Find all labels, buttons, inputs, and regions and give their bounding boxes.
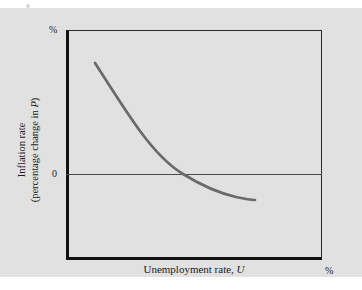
y-axis-title-line-1: Inflation rate (15, 50, 28, 250)
y-axis-title-line-2-prefix: (percentage change in (29, 108, 40, 203)
x-axis-title-unemployment-symbol: U (237, 263, 245, 275)
y-axis-title-price-symbol: P (29, 101, 40, 107)
y-axis-title-line-2: (percentage change in P) (28, 50, 41, 250)
phillips-curve-path (95, 63, 255, 200)
y-axis-unit-label: % (49, 25, 57, 35)
y-axis-zero-label: 0 (52, 169, 57, 179)
x-axis-title-text: Unemployment rate, (143, 263, 236, 275)
figure-plate: % 0 % Inflation rate (percentage change … (0, 8, 362, 277)
phillips-curve-layer (0, 8, 362, 277)
x-axis-unit-label: % (325, 266, 333, 276)
x-axis-title: Unemployment rate, U (66, 263, 322, 275)
y-axis-title: Inflation rate (percentage change in P) (15, 50, 41, 250)
y-axis-title-line-2-suffix: ) (29, 98, 40, 102)
